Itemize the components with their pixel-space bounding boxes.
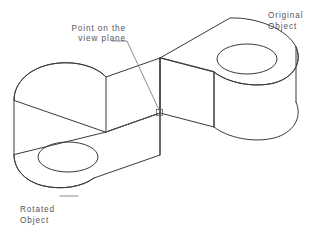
original-cylindrical-surface <box>214 47 298 85</box>
rotated-bottom-face <box>14 113 160 188</box>
annotation-original: Original Object <box>268 11 303 31</box>
rotated-cylindrical-bottom-arc <box>14 155 94 188</box>
annotation-rotated: Rotated Object <box>20 205 55 225</box>
rotated-label-line1: Rotated <box>20 205 55 214</box>
diagram-canvas: Point on the view plane Original Object … <box>0 0 320 242</box>
original-label-line2: Object <box>268 22 297 31</box>
rotated-object <box>14 58 160 188</box>
original-hole-top <box>217 44 277 74</box>
annotation-view-plane: Point on the view plane <box>72 24 127 43</box>
rotated-cylindrical-top-arc <box>14 63 106 100</box>
original-object <box>160 18 298 140</box>
view-plane-leader-line <box>112 41 160 112</box>
view-plane-label-line2: view plane <box>78 34 126 43</box>
rotated-label-line2: Object <box>20 216 49 225</box>
rotated-front-face <box>106 113 160 132</box>
isometric-figure: Point on the view plane Original Object … <box>0 0 320 242</box>
original-cylindrical-bottom <box>214 102 298 140</box>
original-label-line1: Original <box>268 11 303 20</box>
view-plane-label-line1: Point on the <box>72 24 127 33</box>
original-front-left-face <box>160 58 214 127</box>
rotated-hole-bottom <box>38 142 98 172</box>
